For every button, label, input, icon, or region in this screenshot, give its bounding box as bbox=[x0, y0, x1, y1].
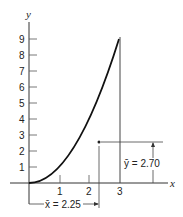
svg-text:2: 2 bbox=[19, 146, 25, 157]
x-axis-label: x bbox=[169, 177, 175, 189]
svg-text:6: 6 bbox=[19, 82, 25, 93]
x-bar-arrow-icon bbox=[94, 202, 99, 206]
svg-text:8: 8 bbox=[19, 50, 25, 61]
svg-text:3: 3 bbox=[19, 130, 25, 141]
centroid-diagram: 1 2 3 4 5 6 7 8 9 1 2 3 y x ȳ = 2.70 x̄ … bbox=[0, 0, 183, 217]
svg-text:4: 4 bbox=[19, 114, 25, 125]
y-bar-label: ȳ = 2.70 bbox=[124, 158, 160, 169]
parabola-curve bbox=[29, 39, 119, 183]
x-tick-labels: 1 2 3 bbox=[57, 186, 123, 197]
y-bar-arrow-icon bbox=[151, 142, 155, 147]
svg-text:5: 5 bbox=[19, 98, 25, 109]
y-axis-label: y bbox=[25, 8, 31, 20]
x-bar-label: x̄ = 2.25 bbox=[45, 199, 81, 210]
y-tick-labels: 1 2 3 4 5 6 7 8 9 bbox=[19, 34, 25, 173]
centroid-point bbox=[98, 141, 101, 144]
svg-text:2: 2 bbox=[86, 186, 92, 197]
svg-text:1: 1 bbox=[57, 186, 63, 197]
svg-text:1: 1 bbox=[19, 162, 25, 173]
x-ticks bbox=[60, 175, 89, 183]
svg-text:7: 7 bbox=[19, 66, 25, 77]
svg-text:3: 3 bbox=[117, 186, 123, 197]
y-ticks bbox=[29, 39, 37, 167]
svg-text:9: 9 bbox=[19, 34, 25, 45]
